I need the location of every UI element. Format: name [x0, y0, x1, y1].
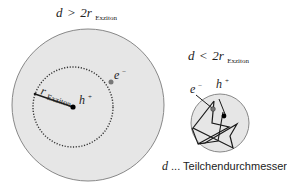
large-particle: d > 2r Exziton r Exziton h + e −: [12, 5, 164, 181]
exciton-diagram: d > 2r Exziton r Exziton h + e − d < 2r: [0, 0, 287, 188]
electron-label: e −: [190, 82, 202, 96]
hole-dot: [222, 114, 227, 119]
hole-label: h +: [216, 77, 229, 91]
large-condition: d > 2r Exziton: [56, 5, 117, 22]
legend: d ... Teilchendurchmesser: [162, 159, 287, 173]
radius-endpoint: [34, 93, 37, 96]
large-particle-circle: [12, 29, 164, 181]
small-condition: d < 2r Exziton: [188, 48, 249, 65]
small-particle: d < 2r Exziton e − h +: [188, 48, 249, 152]
electron-dot: [211, 107, 216, 112]
hole-dot: [70, 104, 75, 109]
electron-dot: [109, 80, 114, 85]
